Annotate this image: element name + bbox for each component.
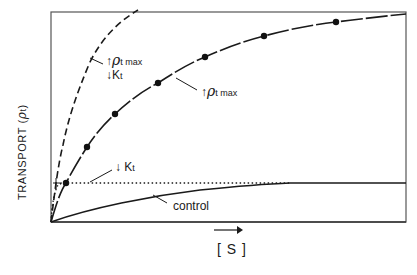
x-arrow-head-icon — [237, 226, 243, 234]
data-point — [333, 19, 339, 25]
rhomax-subscript: t max — [120, 57, 142, 67]
plot-frame — [51, 12, 406, 222]
kt-subscript: t — [132, 163, 135, 173]
data-point — [112, 111, 118, 117]
data-point — [261, 33, 267, 39]
x-axis-label: [ S ] — [217, 241, 247, 257]
leader-line-kt — [90, 170, 112, 182]
dotted-curve-decreased-kt — [51, 183, 290, 222]
leader-line-dashed — [90, 58, 103, 64]
rhomax-subscript: t max — [215, 88, 237, 98]
transport-kinetics-diagram — [0, 0, 417, 275]
leader-line-rhomax — [176, 78, 197, 90]
data-point — [155, 80, 161, 86]
y-axis-label: TRANSPORT (ρt) — [15, 104, 29, 200]
y-axis-close-paren: ) — [16, 104, 28, 108]
rho-symbol: ρ — [207, 83, 215, 99]
annotation-control: control — [173, 199, 209, 213]
curve-increased-rhomax — [51, 14, 406, 222]
annotation-kt: ↓ Kt — [115, 160, 135, 174]
kt-subscript: t — [120, 71, 123, 81]
dashed-curve-increased-rhomax-decreased-kt — [51, 10, 138, 222]
y-axis-text: TRANSPORT ( — [16, 119, 28, 200]
data-point — [202, 54, 208, 60]
rho-symbol: ρ — [112, 52, 120, 68]
annotation-dashed-rhomax: ↑ρt max — [106, 52, 142, 68]
data-point-markers — [63, 19, 339, 186]
data-point — [84, 144, 90, 150]
rho-symbol: ρ — [15, 112, 29, 120]
curve-control — [51, 183, 406, 222]
annotation-dashed-kt: ↓Kt — [106, 68, 123, 82]
kt-text: K — [112, 68, 120, 82]
annotation-rhomax: ↑ρt max — [201, 83, 237, 99]
down-arrow-icon: ↓ — [115, 160, 121, 174]
y-axis-subscript: t — [18, 108, 28, 111]
